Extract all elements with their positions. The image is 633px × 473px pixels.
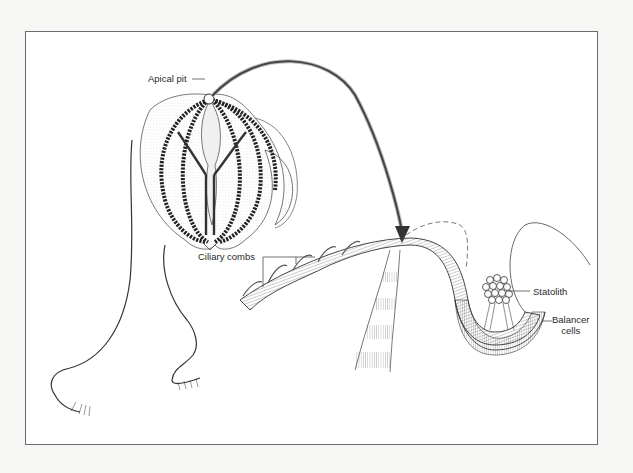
comb-plate-stack <box>355 250 400 372</box>
figure-page: Apical pit Ciliary combs Statolith Balan… <box>0 0 633 473</box>
ctenophore-illustration <box>0 0 633 473</box>
label-ciliary-combs: Ciliary combs <box>198 251 255 262</box>
label-statolith: Statolith <box>533 286 567 297</box>
label-balancer-cells-line2: cells <box>552 325 590 336</box>
label-apical-pit: Apical pit <box>148 73 187 84</box>
ctenophore-body <box>140 94 297 250</box>
label-balancer-cells-line1: Balancer <box>552 314 590 325</box>
statolith-cluster <box>483 275 513 304</box>
label-balancer-cells: Balancer cells <box>552 314 590 336</box>
